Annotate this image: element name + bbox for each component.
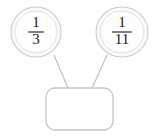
fraction-numerator-left: 1: [32, 14, 40, 30]
answer-box[interactable]: [46, 88, 113, 130]
fraction-numerator-right: 1: [118, 14, 126, 30]
fraction-denominator-left: 3: [32, 31, 40, 47]
connector-line-left: [54, 55, 68, 88]
diagram-canvas: 1 3 1 11: [0, 0, 158, 137]
fraction-tree-diagram: 1 3 1 11: [0, 0, 158, 137]
fraction-denominator-right: 11: [115, 31, 129, 47]
fraction-node-left[interactable]: 1 3: [11, 7, 61, 57]
connector-line-right: [92, 55, 107, 88]
fraction-node-right[interactable]: 1 11: [96, 7, 148, 57]
answer-box-shape[interactable]: [46, 88, 113, 130]
connector-group: [54, 55, 107, 88]
